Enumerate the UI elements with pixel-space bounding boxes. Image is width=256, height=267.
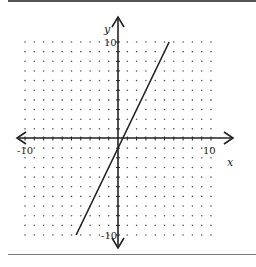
y-min-tick-label: -10: [101, 230, 117, 241]
x-axis-label: x: [227, 156, 234, 169]
coordinate-plane: y 10 -10 -10 10 x: [0, 0, 256, 267]
y-axis-label: y: [103, 23, 111, 36]
x-min-tick-label: -10: [17, 145, 33, 156]
y-max-tick-label: 10: [104, 37, 117, 48]
x-max-tick-label: 10: [203, 145, 216, 156]
bottom-rule: [8, 254, 256, 255]
